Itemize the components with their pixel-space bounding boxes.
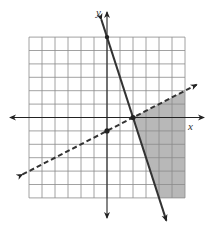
plotted-point — [104, 128, 109, 133]
plotted-point — [105, 35, 109, 39]
x-axis-label: x — [187, 120, 193, 132]
y-axis-label: y — [95, 6, 101, 18]
plotted-point — [130, 115, 135, 120]
coordinate-graph: x y — [0, 0, 212, 230]
